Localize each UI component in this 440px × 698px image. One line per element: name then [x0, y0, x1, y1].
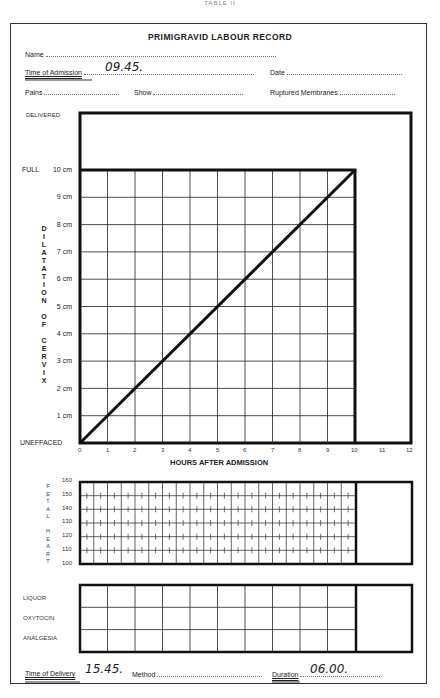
time-of-delivery-value: 15.45.: [85, 662, 123, 676]
fh-tick-110: 110: [62, 546, 72, 552]
x-tick-6: 6: [243, 447, 246, 453]
x-tick-3: 3: [161, 447, 164, 453]
x-tick-5: 5: [216, 447, 219, 453]
method-field[interactable]: Method: [132, 670, 262, 678]
liquor-label: LIQUOR: [23, 595, 46, 601]
method-label: Method: [132, 671, 155, 678]
form-graphics: [0, 0, 440, 698]
x-tick-4: 4: [188, 447, 191, 453]
x-tick-12: 12: [406, 447, 413, 453]
x-tick-0: 0: [78, 447, 81, 453]
time-of-delivery-field[interactable]: Time of Delivery: [25, 670, 75, 677]
fh-tick-160: 160: [62, 477, 72, 483]
fh-tick-100: 100: [62, 560, 72, 566]
x-tick-1: 1: [106, 447, 109, 453]
x-tick-10: 10: [351, 447, 358, 453]
x-tick-8: 8: [298, 447, 301, 453]
fh-tick-130: 130: [62, 518, 72, 524]
time-of-delivery-label: Time of Delivery: [25, 670, 75, 677]
x-tick-7: 7: [271, 447, 274, 453]
x-tick-11: 11: [379, 447, 385, 453]
fetal-heart-grid: [80, 482, 412, 564]
method-input-line[interactable]: [157, 670, 262, 677]
x-tick-9: 9: [326, 447, 329, 453]
fh-tick-140: 140: [62, 505, 72, 511]
fh-tick-120: 120: [62, 532, 72, 538]
fetal-heart-label: F E T A L H E A R T: [44, 483, 52, 566]
x-tick-2: 2: [133, 447, 136, 453]
liquor-oxytocin-analgesia-grid: [80, 585, 412, 652]
x-axis-title: HOURS AFTER ADMISSION: [170, 458, 268, 467]
fh-tick-150: 150: [62, 491, 72, 497]
duration-value: 06.00.: [310, 662, 348, 676]
analgesia-label: ANALGESIA: [23, 635, 57, 641]
duration-label: Duration: [272, 671, 298, 678]
oxytocin-label: OXYTOCIN: [23, 615, 54, 621]
